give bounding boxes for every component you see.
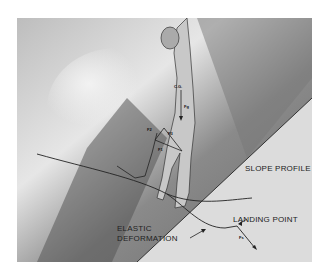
elastic-label-line1: ELASTIC	[117, 224, 152, 233]
ski-landing-diagram: C.G. Fg F2 F3 F1 Fs SLOPE PROFILE LANDIN…	[17, 18, 312, 262]
elastic-label-line2: DEFORMATION	[117, 234, 178, 243]
skier-head	[161, 27, 179, 49]
diagram-artwork	[17, 18, 312, 262]
force-3-label: F3	[168, 131, 173, 136]
force-2-label: F2	[147, 127, 152, 132]
cg-label: C.G.	[174, 84, 182, 89]
landing-point-label: LANDING POINT	[233, 215, 298, 224]
slope-profile-label: SLOPE PROFILE	[245, 164, 311, 173]
force-surface-label: Fs	[239, 235, 244, 240]
force-1-label: F1	[158, 147, 163, 152]
force-gravity-label: Fg	[184, 104, 189, 109]
